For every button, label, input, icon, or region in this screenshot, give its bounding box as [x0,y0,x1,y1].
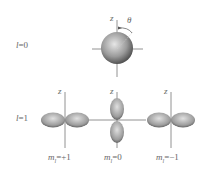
m-label-0: ml=0 [104,152,122,164]
s-orbital [92,20,143,77]
orbital-diagram [0,0,212,175]
p-orbital-m-minus-1 [147,92,195,148]
p-orbital-m-plus-1 [41,92,89,148]
m-label-plus-1: ml=+1 [48,152,71,164]
m-label-minus-1: ml=−1 [156,152,179,164]
z-axis-label-l0: z [110,13,114,23]
z-axis-label-m-0: z [110,86,114,96]
row-label-l0: l=0 [16,40,28,50]
z-axis-label-m-minus-1: z [164,86,168,96]
z-axis-label-m-plus-1: z [58,86,62,96]
theta-label: θ [127,15,131,25]
row-label-l1: l=1 [16,113,28,123]
